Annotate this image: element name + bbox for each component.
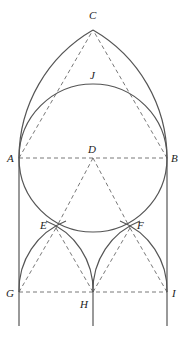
label-d: D bbox=[87, 143, 96, 155]
dashed-line-a-c bbox=[19, 30, 93, 158]
gothic-arch-diagram: C J A D B E F G H I bbox=[0, 0, 188, 337]
dashed-line-e-g bbox=[19, 228, 56, 292]
dashed-line-f-i bbox=[130, 228, 167, 292]
label-f: F bbox=[136, 219, 144, 231]
lower-left-arch-left-arc bbox=[19, 221, 66, 292]
lower-right-arch-right-arc bbox=[120, 221, 167, 292]
label-g: G bbox=[6, 287, 14, 299]
dashed-line-e-h bbox=[56, 228, 93, 292]
label-b: B bbox=[171, 152, 178, 164]
label-a: A bbox=[6, 152, 14, 164]
label-e: E bbox=[39, 219, 47, 231]
dashed-line-d-e bbox=[56, 158, 93, 228]
label-j: J bbox=[90, 69, 96, 81]
dashed-line-b-c bbox=[93, 30, 167, 158]
dashed-line-f-h bbox=[93, 228, 130, 292]
label-c: C bbox=[89, 9, 97, 21]
label-h: H bbox=[79, 298, 89, 310]
dashed-line-d-f bbox=[93, 158, 130, 228]
label-i: I bbox=[171, 287, 177, 299]
